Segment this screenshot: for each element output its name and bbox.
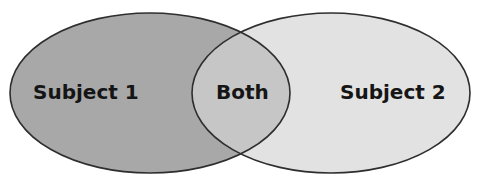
intersection-label: Both: [216, 80, 269, 104]
venn-diagram: Subject 1 Both Subject 2: [0, 0, 479, 178]
subject-2-label: Subject 2: [340, 80, 446, 104]
subject-1-label: Subject 1: [33, 80, 139, 104]
